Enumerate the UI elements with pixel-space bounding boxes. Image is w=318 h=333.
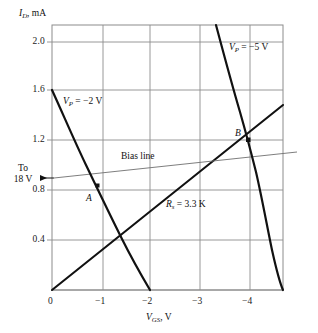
point-b-label: B	[235, 128, 241, 138]
point-a-label: A	[86, 193, 92, 203]
to-supply-label-line1: To	[6, 163, 40, 174]
vp5-value: = −5 V	[239, 42, 268, 52]
y-axis-title: ID, mA	[19, 8, 46, 19]
y-tick-label-1.2: 1.2	[12, 134, 45, 144]
curve-label-vp-minus-2v: VP = −2 V	[63, 96, 102, 107]
x-tick-label-0: 0	[48, 296, 53, 306]
x-axis-title-unit: , V	[160, 312, 171, 322]
to-supply-label-line2: 18 V	[6, 174, 40, 185]
curve-label-vp-minus-5v: VP = −5 V	[229, 42, 268, 53]
x-tick-label-minus4: −4	[242, 296, 253, 306]
vp2-value: = −2 V	[73, 96, 102, 106]
x-tick-label-minus3: −3	[192, 296, 203, 306]
y-tick-label-1.6: 1.6	[12, 84, 45, 94]
rs-value: = 3.3 K	[174, 199, 205, 209]
x-axis-title-subscript: GS	[152, 316, 160, 323]
series-bias-line	[40, 152, 297, 178]
operating-point-a	[96, 184, 100, 188]
y-axis-title-unit: , mA	[27, 8, 46, 18]
y-tick-label-0.4: 0.4	[12, 234, 45, 244]
operating-point-b	[246, 138, 251, 143]
y-axis-ticks	[47, 42, 52, 240]
x-tick-label-minus1: −1	[95, 296, 106, 306]
x-axis-title: VGS, V	[146, 312, 172, 323]
y-tick-label-0.8: 0.8	[12, 184, 45, 194]
y-tick-label-2.0: 2.0	[12, 36, 45, 46]
x-tick-label-minus2: −2	[142, 296, 153, 306]
to-supply-label: To 18 V	[6, 163, 40, 185]
chart-plot	[0, 0, 318, 333]
bias-line-label: Bias line	[121, 151, 155, 161]
figure-container: ID, mA 2.0 1.6 1.2 0.8 0.4 0 −1 −2 −3 −4…	[0, 0, 318, 333]
rs-value-label: Rs = 3.3 K	[166, 199, 206, 210]
